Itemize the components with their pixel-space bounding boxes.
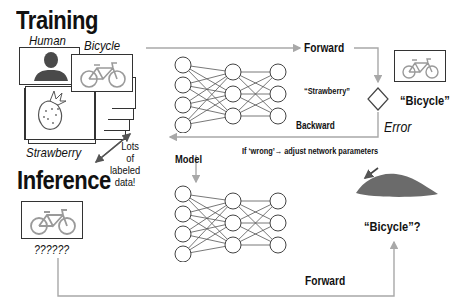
error-label: Error bbox=[384, 119, 411, 135]
inference-result-label: “Bicycle”? bbox=[364, 219, 421, 234]
inference-input-card bbox=[21, 201, 83, 239]
training-neural-network bbox=[170, 55, 300, 133]
bicycle-icon bbox=[395, 51, 447, 83]
adjust-parameters-note: If ‘wrong’→ adjust network parameters bbox=[242, 146, 378, 156]
backward-label: Backward bbox=[296, 120, 335, 131]
target-label: “Bicycle” bbox=[400, 93, 450, 108]
error-comparator-diamond bbox=[368, 88, 388, 110]
model-label: Model bbox=[175, 153, 202, 165]
inference-forward-label: Forward bbox=[305, 274, 345, 288]
prediction-label: “Strawberry” bbox=[304, 86, 350, 96]
inference-neural-network bbox=[170, 184, 300, 262]
forward-label: Forward bbox=[304, 41, 344, 55]
bicycle-icon bbox=[22, 202, 84, 240]
loss-hill-icon bbox=[356, 174, 438, 197]
unknown-label: ?????? bbox=[34, 243, 69, 257]
target-bicycle-card bbox=[394, 50, 446, 82]
